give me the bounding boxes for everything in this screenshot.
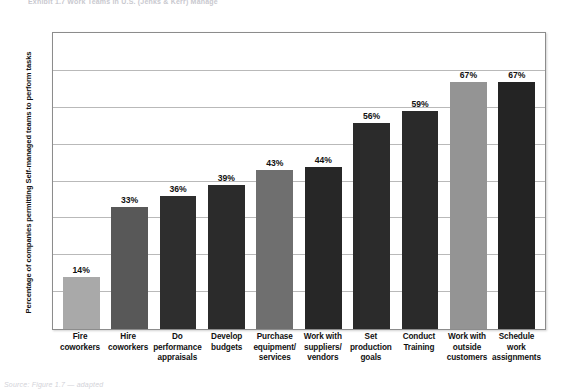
bar-group: 33%: [105, 33, 153, 329]
bar: [450, 82, 487, 329]
x-axis-label: Do performance appraisals: [152, 332, 203, 364]
bottom-caption-text: Source: Figure 1.7 — adapted: [4, 380, 562, 389]
bar-value-label: 43%: [266, 158, 283, 168]
bar-group: 44%: [299, 33, 347, 329]
bar-group: 67%: [493, 33, 541, 329]
x-axis-label: Schedule work assignments: [491, 332, 542, 364]
plot-area: 14%33%36%39%43%44%56%59%67%67%: [52, 32, 546, 330]
bar: [353, 123, 390, 330]
x-axis-label: Hire coworkers: [104, 332, 152, 364]
bar-value-label: 67%: [460, 70, 477, 80]
bar: [111, 207, 148, 329]
x-axis-label: Fire coworkers: [56, 332, 104, 364]
bar: [305, 167, 342, 329]
x-axis-label: Purchase equipment/ services: [251, 332, 299, 364]
bar: [402, 111, 439, 329]
bar: [63, 277, 100, 329]
x-axis-label: Set production goals: [347, 332, 395, 364]
bar-group: 67%: [444, 33, 492, 329]
bar-value-label: 59%: [411, 99, 428, 109]
x-axis-label: Develop budgets: [203, 332, 251, 364]
bar-value-label: 33%: [121, 195, 138, 205]
top-caption-text: Exhibit 1.7 Work Teams in U.S. (Jenks & …: [28, 0, 562, 6]
bar-value-label: 44%: [315, 155, 332, 165]
bar: [160, 196, 197, 329]
bar: [208, 185, 245, 329]
x-axis-label: Work with suppliers/ vendors: [299, 332, 347, 364]
bar: [256, 170, 293, 329]
bar-value-label: 14%: [73, 265, 90, 275]
bar: [498, 82, 535, 329]
y-axis-title: Percentage of companies permitting Self-…: [24, 49, 33, 317]
bar-group: 56%: [347, 33, 395, 329]
bar-group: 59%: [396, 33, 444, 329]
x-axis-label: Conduct Training: [395, 332, 443, 364]
bar-chart-figure: Percentage of companies permitting Self-…: [0, 10, 562, 380]
bar-group: 39%: [202, 33, 250, 329]
bars-layer: 14%33%36%39%43%44%56%59%67%67%: [53, 33, 545, 329]
x-axis-labels: Fire coworkersHire coworkersDo performan…: [52, 332, 546, 364]
bar-group: 36%: [154, 33, 202, 329]
bar-value-label: 36%: [169, 184, 186, 194]
bar-value-label: 56%: [363, 111, 380, 121]
bar-value-label: 39%: [218, 173, 235, 183]
x-axis-label: Work with outside customers: [443, 332, 491, 364]
bar-value-label: 67%: [508, 70, 525, 80]
bar-group: 14%: [57, 33, 105, 329]
bar-group: 43%: [251, 33, 299, 329]
